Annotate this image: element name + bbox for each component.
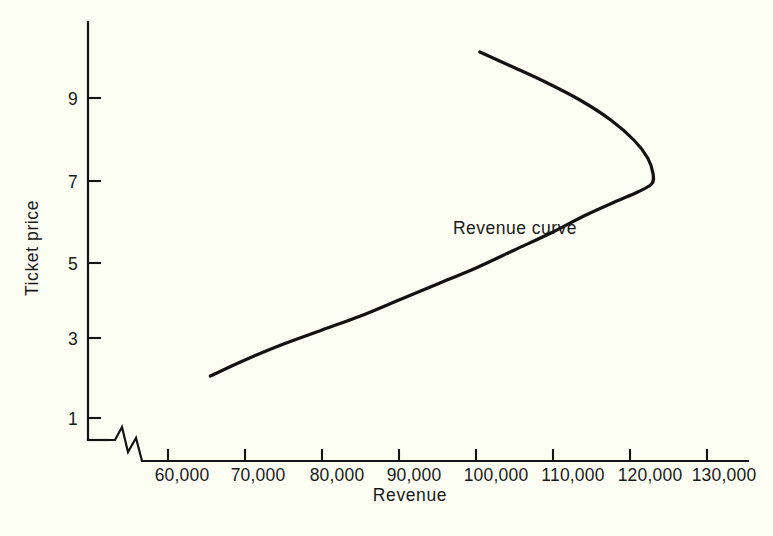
x-tick-label-60000: 60,000 <box>155 465 210 485</box>
x-tick-label-90000: 90,000 <box>387 465 442 485</box>
chart-figure: 9 7 5 3 1 60,000 70,000 80,000 90,000 10… <box>0 0 773 536</box>
y-tick-label-5: 5 <box>68 254 78 274</box>
x-axis-title: Revenue <box>373 485 447 505</box>
y-axis-title: Ticket price <box>22 200 42 296</box>
x-axis-break-icon <box>108 427 142 461</box>
y-tick-label-7: 7 <box>68 172 78 192</box>
revenue-curve-chart: 9 7 5 3 1 60,000 70,000 80,000 90,000 10… <box>0 0 773 536</box>
x-tick-label-120000: 120,000 <box>618 465 683 485</box>
x-tick-label-100000: 100,000 <box>464 465 529 485</box>
y-tick-label-1: 1 <box>68 409 78 429</box>
revenue-curve-line <box>210 52 653 376</box>
y-tick-label-3: 3 <box>68 329 78 349</box>
x-tick-label-80000: 80,000 <box>310 465 365 485</box>
x-tick-label-130000: 130,000 <box>692 465 757 485</box>
revenue-curve-annotation: Revenue curve <box>453 218 577 238</box>
x-tick-label-110000: 110,000 <box>541 465 604 485</box>
x-tick-label-70000: 70,000 <box>231 465 286 485</box>
y-tick-label-9: 9 <box>68 89 78 109</box>
